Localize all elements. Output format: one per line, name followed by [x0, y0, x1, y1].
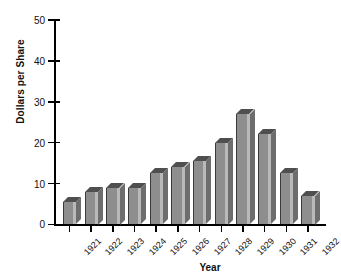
bar-front-face: [171, 167, 184, 224]
bar: [258, 134, 271, 224]
x-tick-label: 1924: [146, 236, 167, 257]
bar-front-face: [236, 114, 249, 224]
bar: [301, 196, 314, 225]
bar-front-face: [193, 161, 206, 224]
bar-side-face: [250, 109, 255, 224]
y-tick: [48, 183, 60, 185]
plot-area: 01020304050 1921192219231924192519261927…: [54, 20, 326, 226]
bar-side-face: [228, 138, 233, 225]
x-axis-title: Year: [0, 262, 334, 273]
x-tick: [90, 224, 92, 232]
bar: [85, 192, 98, 225]
bar-side-face: [206, 156, 211, 224]
x-axis-title-text: Year: [199, 262, 220, 273]
x-tick-label: 1926: [190, 236, 211, 257]
bar-front-face: [85, 192, 98, 225]
bar-side-face: [98, 187, 103, 225]
x-tick: [69, 224, 71, 232]
bar-front-face: [128, 188, 141, 224]
y-tick-label: 30: [34, 96, 45, 107]
x-tick: [221, 224, 223, 232]
y-tick: [48, 19, 60, 21]
x-tick: [199, 224, 201, 232]
bar: [150, 173, 163, 224]
y-tick: [48, 224, 60, 226]
bar: [215, 143, 228, 225]
x-tick-label: 1923: [125, 236, 146, 257]
x-tick-label: 1921: [81, 236, 102, 257]
x-tick: [112, 224, 114, 232]
x-tick: [242, 224, 244, 232]
bar-front-face: [150, 173, 163, 224]
bar-side-face: [185, 162, 190, 224]
bar-front-face: [63, 202, 76, 224]
y-tick-label: 40: [34, 55, 45, 66]
x-tick-label: 1925: [168, 236, 189, 257]
y-tick-label: 0: [39, 219, 45, 230]
bar-front-face: [280, 173, 293, 224]
bar-side-face: [293, 168, 298, 224]
bar: [171, 167, 184, 224]
x-tick: [155, 224, 157, 232]
x-tick: [177, 224, 179, 232]
x-tick: [286, 224, 288, 232]
y-tick: [48, 60, 60, 62]
x-tick-label: 1929: [255, 236, 276, 257]
y-axis-line: [54, 20, 56, 226]
x-tick-label: 1932: [320, 236, 341, 257]
bar-side-face: [163, 168, 168, 224]
bar-front-face: [106, 188, 119, 225]
y-tick-label: 20: [34, 137, 45, 148]
bar: [236, 114, 249, 224]
x-tick-label: 1931: [298, 236, 319, 257]
x-tick: [264, 224, 266, 232]
bar: [193, 161, 206, 224]
bar-front-face: [301, 196, 314, 225]
bar-side-face: [271, 129, 276, 224]
bar-side-face: [141, 183, 146, 224]
bar: [63, 202, 76, 224]
bar-front-face: [215, 143, 228, 225]
y-tick-label: 50: [34, 15, 45, 26]
x-tick-label: 1930: [277, 236, 298, 257]
x-tick: [307, 224, 309, 232]
bar: [128, 188, 141, 224]
bar-front-face: [258, 134, 271, 224]
y-tick-label: 10: [34, 178, 45, 189]
x-tick-label: 1922: [103, 236, 124, 257]
bar: [280, 173, 293, 224]
bar-side-face: [315, 191, 320, 225]
x-tick-label: 1928: [233, 236, 254, 257]
bar: [106, 188, 119, 225]
y-tick: [48, 142, 60, 144]
y-tick: [48, 101, 60, 103]
y-axis-title: Dollars per Share: [15, 22, 26, 142]
x-tick: [134, 224, 136, 232]
x-tick-label: 1927: [212, 236, 233, 257]
bar-side-face: [120, 183, 125, 225]
